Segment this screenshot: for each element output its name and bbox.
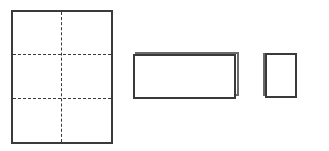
horizontal-fold-line-bottom [13, 98, 111, 99]
vertical-fold-line [61, 12, 62, 142]
folded-strip-front-layer [133, 54, 236, 99]
horizontal-fold-line-top [13, 54, 111, 55]
folded-square-front-layer [265, 53, 297, 98]
flat-sheet [11, 10, 113, 144]
